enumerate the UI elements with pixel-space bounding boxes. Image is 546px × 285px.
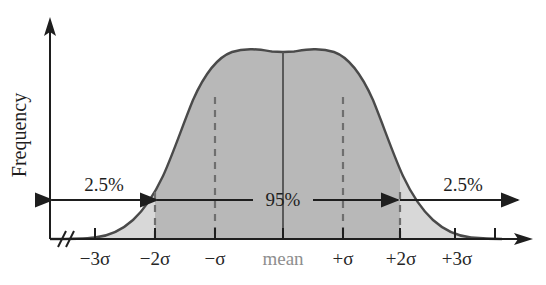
- x-label-minus-2-sigma: −2σ: [140, 248, 170, 269]
- x-axis-tick-labels: −3σ −2σ −σ mean +σ +2σ +3σ: [80, 248, 472, 269]
- central-95-area: [50, 49, 502, 239]
- left-tail-percent-label: 2.5%: [84, 174, 124, 195]
- center-percent-label: 95%: [266, 189, 301, 210]
- right-tail-percent-label: 2.5%: [443, 174, 483, 195]
- x-label-mean: mean: [262, 248, 304, 269]
- normal-distribution-figure: 2.5% 95% 2.5% −3σ −2σ −σ mean +σ +2σ +3σ…: [0, 0, 546, 285]
- x-label-plus-2-sigma: +2σ: [386, 248, 416, 269]
- distribution-shaded-areas: [50, 49, 502, 239]
- x-label-minus-1-sigma: −σ: [205, 248, 226, 269]
- y-axis: [44, 17, 56, 239]
- x-label-minus-3-sigma: −3σ: [80, 248, 110, 269]
- x-label-plus-3-sigma: +3σ: [442, 248, 472, 269]
- y-axis-label: Frequency: [8, 93, 31, 177]
- x-label-plus-1-sigma: +σ: [333, 248, 354, 269]
